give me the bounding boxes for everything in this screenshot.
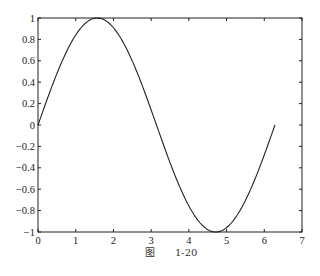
x-tick-label: 7	[299, 235, 304, 246]
y-tick-label: −0.2	[16, 141, 35, 152]
y-tick-label: 0	[30, 120, 35, 131]
y-tick-label: 1	[30, 13, 35, 24]
x-tick-label: 2	[111, 235, 116, 246]
y-tick-label: 0.2	[22, 98, 35, 109]
x-tick-label: 1	[73, 235, 78, 246]
x-tick-label: 0	[35, 235, 40, 246]
y-tick-label: 0.8	[22, 34, 35, 45]
x-tick-label: 5	[224, 235, 229, 246]
y-axis-ticks: 10.80.60.40.20−0.2−0.4−0.6−0.8−1	[16, 13, 302, 238]
y-tick-label: −0.8	[16, 205, 35, 216]
figure-caption-label: 图	[145, 247, 155, 258]
y-tick-label: −0.6	[16, 184, 35, 195]
figure-caption-number: 1-20	[175, 247, 197, 258]
x-tick-label: 6	[262, 235, 267, 246]
x-tick-label: 3	[149, 235, 154, 246]
y-tick-label: 0.6	[22, 55, 35, 66]
y-tick-label: −1	[24, 227, 35, 238]
sine-chart: 01234567 10.80.60.40.20−0.2−0.4−0.6−0.8−…	[0, 0, 320, 276]
sine-curve	[38, 18, 275, 232]
x-axis-ticks: 01234567	[35, 18, 304, 246]
plot-frame	[38, 18, 302, 232]
y-tick-label: −0.4	[16, 162, 36, 173]
x-tick-label: 4	[186, 235, 192, 246]
y-tick-label: 0.4	[22, 77, 36, 88]
